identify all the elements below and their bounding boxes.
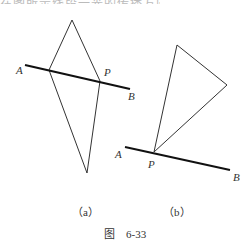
line-ab-a xyxy=(25,65,130,89)
figure-caption: 图 6-33 xyxy=(104,225,146,241)
figure-b xyxy=(125,45,230,170)
line-ab-b xyxy=(125,147,230,170)
quadrilateral-a xyxy=(49,20,100,173)
point-label-p-fig-a: P xyxy=(104,66,111,78)
point-label-a-fig-b: A xyxy=(115,148,122,160)
diagram-canvas xyxy=(0,0,251,245)
triangle-b xyxy=(154,45,227,152)
point-label-a-fig-a: A xyxy=(16,64,23,76)
point-label-b-fig-a: B xyxy=(128,90,135,102)
subfigure-label-a: （a） xyxy=(72,203,99,219)
subfigure-label-b: （b） xyxy=(163,203,191,219)
point-label-p-fig-b: P xyxy=(148,158,155,170)
point-label-b-fig-b: B xyxy=(233,171,240,183)
